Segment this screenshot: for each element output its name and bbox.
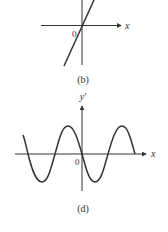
x-axis-label: x	[150, 148, 156, 159]
graph-b: x 0 (b)	[41, 0, 130, 86]
caption-b: (b)	[77, 74, 89, 86]
origin-label: 0	[75, 157, 80, 167]
y-axis-label: y′	[79, 91, 87, 102]
figure-canvas: x 0 (b) x y′ 0 (d)	[0, 0, 168, 232]
x-axis-label: x	[124, 20, 130, 31]
origin-label: 0	[72, 29, 77, 39]
linear-curve	[64, 0, 94, 66]
graph-d: x y′ 0 (d)	[15, 91, 156, 215]
caption-d: (d)	[77, 203, 89, 215]
